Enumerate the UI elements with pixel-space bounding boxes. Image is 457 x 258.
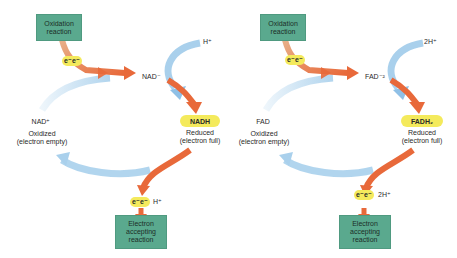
electrons-bottom-pill: e⁻e⁻ [354,190,374,200]
reduced-form-label: NADH [190,118,210,125]
oxidation-reaction-label: Oxidation reaction [37,20,81,36]
intermediate-label: NAD⁻ [142,73,161,81]
electrons-bottom-pill: e⁻e⁻ [130,197,150,207]
intermediate-label: FAD⁻² [365,73,385,81]
electron-accepting-reaction-box: Electron accepting reaction [115,215,167,249]
electrons-bottom-label: e⁻e⁻ [356,191,372,199]
electrons-top-label: e⁻e⁻ [64,57,80,65]
reduced-state-label: Reduced [400,129,444,137]
electrons-top-label: e⁻e⁻ [287,56,303,64]
oxidation-reaction-box: Oxidation reaction [260,14,306,41]
reduced-note-label: (electron full) [398,137,446,145]
proton-in-label: H⁺ [203,38,212,46]
oxidation-reaction-box: Oxidation reaction [36,14,82,41]
oxidized-note-label: (electron empty) [232,138,296,146]
reduced-form-label: FADH₂ [411,118,433,125]
electrons-top-pill: e⁻e⁻ [285,55,305,65]
reduced-state-label: Reduced [178,129,222,137]
reduced-note-label: (electron full) [176,137,224,145]
oxidized-note-label: (electron empty) [10,138,74,146]
reduced-form-pill: NADH [180,115,220,127]
proton-out-label: 2H⁺ [378,191,391,199]
nad-cycle-panel: Oxidation reaction e⁻e⁻ NAD⁻ H⁺ NADH Red… [0,0,228,258]
fad-cycle-panel: Oxidation reaction e⁻e⁻ FAD⁻² 2H⁺ FADH₂ … [228,0,456,258]
oxidized-form-label: NAD⁺ [26,118,56,126]
oxidized-form-label: FAD [248,118,278,126]
electron-accepting-reaction-label: Electron accepting reaction [340,220,390,244]
oxidized-state-label: Oxidized [14,130,70,138]
proton-out-label: H⁺ [153,198,162,206]
oxidation-reaction-label: Oxidation reaction [261,20,305,36]
proton-in-label: 2H⁺ [424,38,437,46]
oxidized-state-label: Oxidized [236,130,292,138]
electron-accepting-reaction-label: Electron accepting reaction [116,220,166,244]
electron-accepting-reaction-box: Electron accepting reaction [339,215,391,249]
reduced-form-pill: FADH₂ [401,115,443,127]
electrons-bottom-label: e⁻e⁻ [132,198,148,206]
electrons-top-pill: e⁻e⁻ [62,56,82,66]
